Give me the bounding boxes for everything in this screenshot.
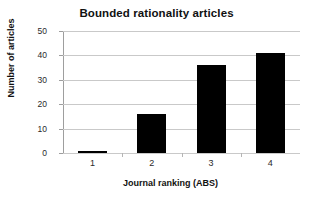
chart-title: Bounded rationality articles: [0, 7, 313, 19]
x-tick-label: 3: [191, 158, 231, 168]
y-tick-label: 10: [25, 125, 47, 134]
gridline: [63, 31, 300, 32]
bar: [256, 53, 285, 153]
y-tick-mark: [59, 80, 63, 81]
y-tick-mark: [59, 104, 63, 105]
x-tick-label: 4: [250, 158, 290, 168]
y-tick-mark: [59, 55, 63, 56]
y-axis-line: [63, 31, 64, 154]
y-tick-mark: [59, 31, 63, 32]
y-tick-label: 0: [25, 149, 47, 158]
x-tick-label: 1: [73, 158, 113, 168]
x-tick-mark: [182, 153, 183, 157]
x-tick-label: 2: [132, 158, 172, 168]
bar-chart-figure: Bounded rationality articles Number of a…: [0, 0, 313, 201]
bar: [78, 151, 107, 153]
x-tick-mark: [122, 153, 123, 157]
y-tick-mark: [59, 129, 63, 130]
y-tick-label: 40: [25, 51, 47, 60]
y-tick-label: 50: [25, 27, 47, 36]
plot-area: 01020304050 1234: [63, 31, 300, 153]
x-axis-title: Journal ranking (ABS): [38, 178, 303, 188]
y-tick-mark: [59, 153, 63, 154]
y-axis-title: Number of articles: [6, 8, 16, 108]
bar: [197, 65, 226, 153]
y-tick-label: 30: [25, 76, 47, 85]
bar: [137, 114, 166, 153]
y-tick-label: 20: [25, 100, 47, 109]
x-tick-mark: [241, 153, 242, 157]
